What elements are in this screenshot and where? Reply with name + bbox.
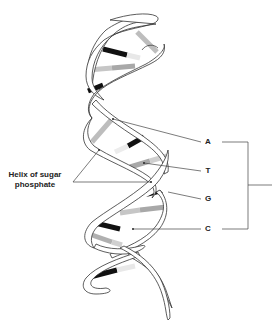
base-label-t: T bbox=[203, 166, 213, 176]
base-label-g: G bbox=[203, 194, 213, 204]
leader-lines bbox=[73, 118, 272, 230]
dna-diagram: Helix of sugar phosphate A T G C bbox=[0, 0, 272, 320]
helix-label-line2: phosphate bbox=[0, 180, 73, 190]
dna-helix-drawing bbox=[0, 0, 272, 320]
base-label-c: C bbox=[203, 224, 213, 234]
sugar-phosphate-backbone bbox=[83, 14, 172, 320]
helix-label-line1: Helix of sugar bbox=[0, 170, 73, 180]
base-label-a: A bbox=[203, 137, 213, 147]
helix-sugar-phosphate-label: Helix of sugar phosphate bbox=[0, 170, 73, 190]
